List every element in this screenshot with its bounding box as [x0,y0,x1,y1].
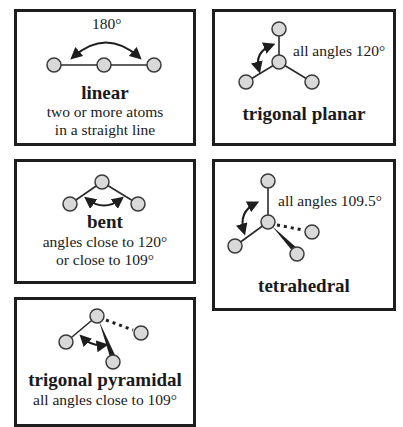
trigonal-planar-name: trigonal planar [212,104,396,125]
angle-arrow [82,337,105,345]
dashed-bond [277,225,303,230]
angle-arrow [87,199,121,206]
tetrahedral-angle-label: all angles 109.5° [278,192,382,210]
angle-arrow [243,203,257,232]
atom-central [272,55,286,69]
linear-angle-label: 180° [92,15,121,33]
trigonal-planar-angle-label: all angles 120° [293,42,385,60]
linear-molecule [47,43,161,73]
atom [59,335,73,349]
atom [147,58,161,72]
linear-description-2: in a straight line [14,121,196,138]
bent-name: bent [14,212,196,233]
bent-description-2: or close to 109° [14,251,196,268]
bent-description-1: angles close to 120° [14,233,196,250]
trigonal-pyramidal-name: trigonal pyramidal [14,370,196,391]
atom [134,326,148,340]
linear-name: linear [14,83,196,104]
atom [305,75,319,89]
atom [47,58,61,72]
wedge-bond [99,321,115,357]
atom-central [95,175,109,189]
atom-central [261,215,275,229]
atom [131,197,145,211]
atom [261,174,275,188]
linear-description-1: two or more atoms [14,103,196,120]
atom-central [90,309,104,323]
tetrahedral-name: tetrahedral [212,276,396,297]
atom [63,197,77,211]
atom [290,247,304,261]
bent-molecule [63,175,145,211]
atom [228,239,242,253]
atom-central [97,58,111,72]
atom [106,355,120,369]
atom [272,22,286,36]
trigonal-pyramidal-molecule [59,309,148,369]
dashed-bond [106,320,133,330]
atom [239,75,253,89]
angle-arrow-180 [73,43,139,58]
tetrahedral-molecule [228,174,319,261]
atom [305,225,319,239]
angle-arrow [258,45,272,70]
trigonal-pyramidal-description: all angles close to 109° [14,391,196,408]
